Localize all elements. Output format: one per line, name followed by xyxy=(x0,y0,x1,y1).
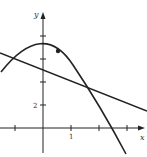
x-axis-arrow-icon xyxy=(138,126,145,131)
x-tick-label-1: 1 xyxy=(69,133,73,141)
x-axis-label: x xyxy=(140,133,145,142)
y-tick-label-2: 2 xyxy=(33,102,37,110)
y-axis-label: y xyxy=(33,10,39,19)
graph: y x 1 2 xyxy=(0,0,147,157)
y-axis-arrow-icon xyxy=(41,12,46,19)
marked-point xyxy=(56,49,60,53)
straight-line xyxy=(0,53,147,111)
